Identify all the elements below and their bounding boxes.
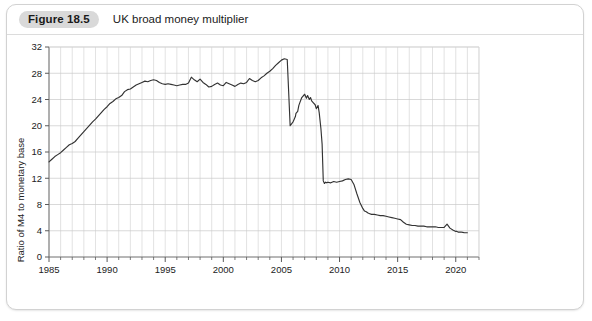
x-tick-label: 1985: [38, 264, 59, 275]
y-tick-label: 28: [31, 68, 42, 79]
y-tick-label: 20: [31, 120, 42, 131]
figure-number-badge: Figure 18.5: [19, 11, 99, 29]
y-tick-label: 24: [31, 94, 42, 105]
y-axis-ticks: [45, 47, 49, 257]
figure-title: UK broad money multiplier: [113, 14, 249, 26]
y-tick-label: 16: [31, 146, 42, 157]
x-axis-ticks: [49, 257, 479, 262]
x-tick-label: 2000: [213, 264, 234, 275]
y-tick-label: 8: [37, 199, 42, 210]
x-tick-label: 1990: [97, 264, 118, 275]
money-multiplier-line-chart: 048121620242832 198519901995200020052010…: [7, 35, 584, 310]
y-tick-label: 32: [31, 41, 42, 52]
horizontal-gridlines: [49, 47, 479, 231]
x-tick-label: 1995: [155, 264, 176, 275]
figure-header: Figure 18.5 UK broad money multiplier: [7, 5, 583, 35]
x-axis-tick-labels: 19851990199520002005201020152020: [38, 264, 466, 275]
x-tick-label: 2010: [329, 264, 350, 275]
x-tick-label: 2005: [271, 264, 292, 275]
x-tick-label: 2020: [445, 264, 466, 275]
y-tick-label: 0: [37, 251, 42, 262]
y-tick-label: 12: [31, 173, 42, 184]
figure-card: Figure 18.5 UK broad money multiplier 04…: [6, 4, 584, 310]
y-tick-label: 4: [37, 225, 42, 236]
y-axis-title: Ratio of M4 to monetary base: [15, 138, 26, 263]
figure-body: 048121620242832 198519901995200020052010…: [7, 35, 583, 310]
y-axis-tick-labels: 048121620242832: [31, 41, 42, 262]
x-tick-label: 2015: [387, 264, 408, 275]
